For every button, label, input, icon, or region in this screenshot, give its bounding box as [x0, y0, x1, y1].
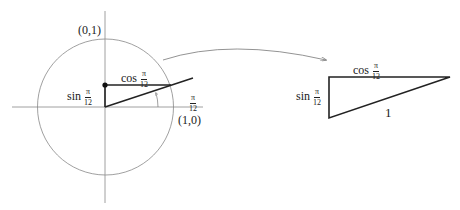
triangle-sin-den: 12	[313, 98, 321, 107]
triangle-cos-fn: cos	[353, 63, 369, 77]
triangle-cos-label: cosπ12	[353, 62, 380, 81]
triangle-sin-fn: sin	[296, 89, 310, 103]
radius-line	[105, 78, 193, 107]
cos-label: cosπ12	[121, 70, 148, 89]
sin-label: sinπ12	[67, 88, 92, 107]
transfer-arrow	[163, 49, 326, 60]
angle-label: π12	[189, 94, 197, 113]
hypotenuse-label: 1	[385, 106, 392, 119]
angle-den: 12	[189, 104, 197, 113]
triangle-sin-fraction: π12	[313, 88, 321, 107]
angle-fraction: π12	[189, 94, 197, 113]
point-dot	[102, 82, 107, 87]
triangle-cos-num: π	[373, 62, 379, 72]
label-0-1: (0,1)	[78, 24, 101, 36]
cos-num: π	[141, 70, 147, 80]
cos-fraction: π12	[140, 70, 148, 89]
triangle-sin-label: sinπ12	[296, 88, 321, 107]
triangle-cos-fraction: π12	[372, 62, 380, 81]
triangle-sin-num: π	[314, 88, 320, 98]
sin-fraction: π12	[84, 88, 92, 107]
sin-den: 12	[84, 98, 92, 107]
angle-num: π	[190, 94, 196, 104]
angle-arc	[156, 93, 158, 107]
cos-den: 12	[140, 80, 148, 89]
sin-fn: sin	[67, 89, 81, 103]
label-1-0: (1,0)	[178, 114, 201, 126]
sin-num: π	[85, 88, 91, 98]
cos-fn: cos	[121, 71, 137, 85]
triangle-cos-den: 12	[372, 72, 380, 81]
